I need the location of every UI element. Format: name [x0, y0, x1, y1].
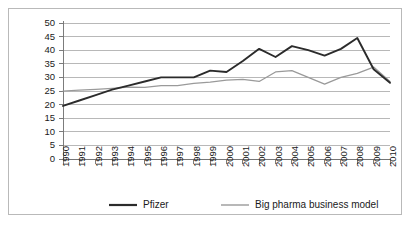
chart-legend: PfizerBig pharma business model	[109, 199, 378, 210]
x-tick-label: 2003	[273, 146, 284, 167]
x-tick-label: 2010	[387, 146, 398, 167]
y-tick-label: 10	[44, 126, 55, 137]
legend-label: Pfizer	[143, 199, 169, 210]
x-tick-label: 2002	[256, 146, 267, 167]
chart-container: 05101520253035404550 1990199119921993199…	[8, 8, 402, 215]
y-tick-label: 50	[44, 17, 55, 28]
y-axis-labels: 05101520253035404550	[44, 17, 55, 164]
x-tick-label: 1991	[76, 146, 87, 167]
y-tick-label: 15	[44, 112, 55, 123]
gridlines	[63, 23, 390, 159]
y-tick-label: 40	[44, 44, 55, 55]
y-tick-label: 45	[44, 31, 55, 42]
x-tick-label: 1998	[191, 146, 202, 167]
legend-label: Big pharma business model	[255, 199, 378, 210]
x-axis-labels: 1990199119921993199419951996199719981999…	[60, 146, 398, 167]
x-tick-label: 1995	[142, 146, 153, 167]
y-tick-label: 20	[44, 99, 55, 110]
x-tick-label: 2008	[354, 146, 365, 167]
x-tick-label: 2000	[224, 146, 235, 167]
y-tick-label: 35	[44, 58, 55, 69]
y-tick-label: 25	[44, 85, 55, 96]
x-tick-label: 1997	[174, 146, 185, 167]
x-tick-label: 1999	[207, 146, 218, 167]
y-tick-label: 0	[50, 153, 55, 164]
line-chart: 05101520253035404550 1990199119921993199…	[9, 9, 401, 214]
x-tick-label: 1996	[158, 146, 169, 167]
y-tick-label: 5	[50, 139, 55, 150]
x-tick-label: 1992	[93, 146, 104, 167]
x-tick-label: 1993	[109, 146, 120, 167]
x-tick-label: 2007	[338, 146, 349, 167]
series-line-pfizer	[63, 38, 390, 106]
y-tick-label: 30	[44, 71, 55, 82]
x-tick-label: 1994	[125, 146, 136, 167]
series-line-big-pharma-business-model	[63, 67, 390, 91]
x-tick-label: 2001	[240, 146, 251, 167]
x-tick-label: 1990	[60, 146, 71, 167]
x-tick-label: 2006	[322, 146, 333, 167]
x-tick-label: 2004	[289, 146, 300, 167]
x-tick-label: 2005	[305, 146, 316, 167]
x-tick-label: 2009	[371, 146, 382, 167]
